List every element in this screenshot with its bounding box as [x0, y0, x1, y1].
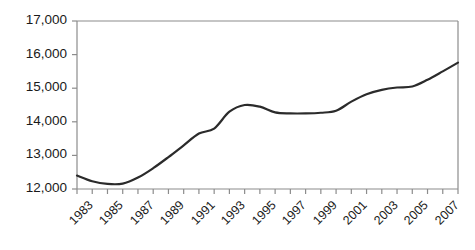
y-tick-label: 12,000	[26, 180, 67, 195]
y-tick-label: 17,000	[26, 12, 67, 27]
axis-lines	[77, 21, 458, 189]
y-tick-label: 15,000	[26, 79, 67, 94]
y-tick-label: 16,000	[26, 46, 67, 61]
y-tick-label: 14,000	[26, 113, 67, 128]
y-axis-ticks	[72, 21, 77, 189]
y-tick-label: 13,000	[26, 146, 67, 161]
data-series-line	[77, 63, 458, 185]
line-chart: 12,00013,00014,00015,00016,00017,000 198…	[0, 0, 475, 250]
x-axis-ticks	[77, 189, 458, 194]
